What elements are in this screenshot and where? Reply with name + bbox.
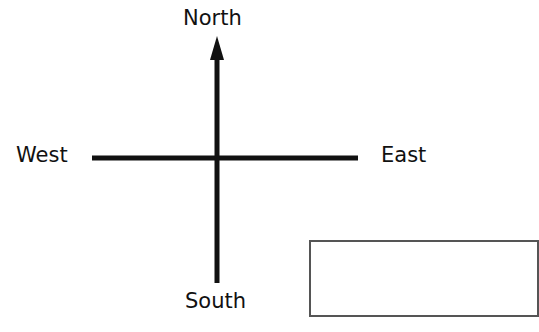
north-label: North (183, 8, 242, 29)
south-label: South (185, 291, 246, 312)
answer-box[interactable] (309, 240, 539, 317)
north-arrowhead-icon (210, 36, 224, 60)
east-label: East (381, 145, 426, 166)
west-label: West (16, 145, 68, 166)
